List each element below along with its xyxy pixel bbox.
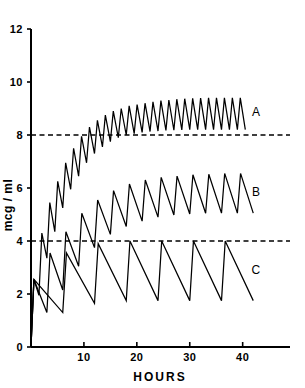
x-axis-title: HOURS (133, 370, 186, 384)
y-tick-label-4: 4 (16, 235, 23, 247)
x-axis-tick-labels: 10203040 (77, 351, 249, 363)
y-tick-label-12: 12 (10, 23, 23, 35)
series-label-C: C (252, 263, 261, 277)
y-tick-label-6: 6 (16, 182, 23, 194)
y-tick-label-2: 2 (16, 288, 23, 300)
series-line-B (31, 173, 253, 347)
x-tick-label-20: 20 (130, 351, 143, 363)
series-label-A: A (252, 105, 260, 119)
y-axis-title: mcg / ml (1, 179, 15, 232)
series-label-B: B (252, 185, 260, 199)
chart-figure: 024681012 10203040 ABC HOURS mcg / ml (0, 0, 305, 388)
y-tick-label-0: 0 (16, 341, 23, 353)
x-tick-label-30: 30 (183, 351, 196, 363)
plot-svg: 024681012 10203040 ABC HOURS mcg / ml (0, 0, 305, 388)
x-tick-label-10: 10 (77, 351, 90, 363)
y-tick-label-8: 8 (16, 129, 23, 141)
x-tick-label-40: 40 (236, 351, 249, 363)
series-labels: ABC (252, 105, 261, 277)
y-tick-label-10: 10 (10, 76, 23, 88)
